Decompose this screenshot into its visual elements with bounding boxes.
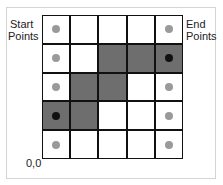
grid-cell bbox=[128, 102, 154, 129]
grid-cell bbox=[128, 45, 154, 72]
grid-cell bbox=[99, 102, 125, 129]
point-icon bbox=[52, 25, 60, 33]
grid-cell bbox=[128, 16, 154, 43]
grid-cell bbox=[71, 16, 97, 43]
grid-cell bbox=[71, 102, 97, 129]
point-icon bbox=[165, 83, 173, 91]
grid-cell bbox=[99, 131, 125, 158]
grid-cell bbox=[43, 74, 69, 101]
point-icon bbox=[52, 141, 60, 149]
grid-cell bbox=[99, 45, 125, 72]
grid-cell bbox=[156, 16, 182, 43]
grid-cell bbox=[43, 131, 69, 158]
start-label-line2: Points bbox=[8, 30, 39, 42]
grid-cell bbox=[71, 74, 97, 101]
grid-cell bbox=[99, 74, 125, 101]
grid-cell bbox=[128, 131, 154, 158]
grid-cell bbox=[128, 74, 154, 101]
grid-cell bbox=[71, 45, 97, 72]
start-label-line1: Start bbox=[10, 18, 33, 30]
selected-point-icon bbox=[165, 54, 173, 62]
grid-cell bbox=[43, 102, 69, 129]
selected-point-icon bbox=[52, 112, 60, 120]
grid-cell bbox=[99, 16, 125, 43]
grid-cell bbox=[43, 16, 69, 43]
grid-cell bbox=[156, 131, 182, 158]
point-icon bbox=[165, 141, 173, 149]
end-label-line2: Points bbox=[186, 30, 217, 42]
point-icon bbox=[52, 83, 60, 91]
grid-cell bbox=[43, 45, 69, 72]
grid-cell bbox=[71, 131, 97, 158]
point-icon bbox=[165, 112, 173, 120]
grid-cell bbox=[156, 45, 182, 72]
path-grid bbox=[42, 15, 183, 159]
point-icon bbox=[165, 25, 173, 33]
point-icon bbox=[52, 54, 60, 62]
grid-cell bbox=[156, 102, 182, 129]
origin-label: 0,0 bbox=[26, 157, 41, 169]
grid-cell bbox=[156, 74, 182, 101]
end-label-line1: End bbox=[186, 18, 206, 30]
